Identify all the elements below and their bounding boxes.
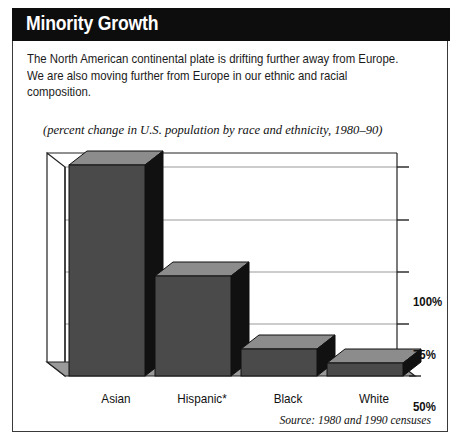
bar-black-front: [241, 349, 317, 376]
chart-svg: [27, 143, 435, 393]
page-title: Minority Growth: [26, 12, 158, 35]
bar-white: [327, 349, 421, 376]
bar-asian-front: [69, 165, 145, 376]
y-tick-label-75: 75%: [413, 347, 436, 362]
screenshot-root: Minority Growth The North American conti…: [0, 0, 460, 443]
x-label-white: White: [332, 391, 417, 406]
x-label-hispanic: Hispanic*: [160, 391, 245, 406]
card-title-bar: Minority Growth: [12, 8, 450, 41]
chart-caption: (percent change in U.S. population by ra…: [43, 123, 383, 138]
bar-hispanic-front: [155, 276, 231, 376]
bar-white-front: [327, 363, 403, 376]
source-note: Source: 1980 and 1990 censuses: [279, 414, 431, 427]
bar-chart: 100% 75% 50% 25% 0%: [27, 143, 435, 393]
left-wall: [47, 153, 65, 376]
bar-black: [241, 335, 335, 376]
deck-paragraph: The North American continental plate is …: [27, 51, 404, 101]
infographic-card: Minority Growth The North American conti…: [12, 8, 448, 432]
x-label-black: Black: [246, 391, 331, 406]
bar-asian: [69, 151, 163, 376]
y-tick-marks: [397, 167, 421, 376]
bar-hispanic: [155, 262, 249, 376]
y-tick-label-100: 100%: [413, 294, 442, 309]
x-axis-labels: Asian Hispanic* Black White: [27, 391, 435, 413]
x-label-asian: Asian: [74, 391, 159, 406]
